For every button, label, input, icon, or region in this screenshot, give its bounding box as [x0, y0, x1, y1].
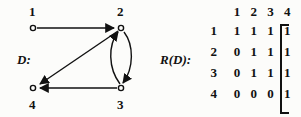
matrix-cell-2-2: 1: [245, 41, 262, 62]
bracket-col-right: [296, 62, 301, 83]
matrix-corner: [204, 4, 223, 20]
digraph-drawing: 1 2 3 4: [0, 0, 150, 117]
edge-3-to-2: [111, 32, 120, 84]
matrix-cell-2-3: 1: [262, 41, 279, 62]
bracket-col-right: [296, 20, 301, 41]
digraph-panel: D: 1 2 3: [0, 0, 150, 117]
matrix-bracket-left: [280, 24, 289, 110]
vertex-label-4: 4: [29, 97, 36, 112]
bracket-col-right: [296, 41, 301, 62]
edge-2-to-4: [40, 31, 118, 84]
matrix-cell-4-2: 0: [245, 83, 262, 104]
vertex-3: [118, 85, 123, 90]
reachability-figure: D: 1 2 3: [0, 0, 301, 117]
row-header-2: 2: [204, 41, 223, 62]
column-header-3: 3: [262, 4, 279, 20]
row-header-3: 3: [204, 62, 223, 83]
bracket-spacer-right: [296, 4, 301, 20]
vertex-2: [118, 25, 123, 30]
matrix-cell-4-3: 0: [262, 83, 279, 104]
vertex-label-3: 3: [117, 97, 124, 112]
vertex-label-1: 1: [29, 4, 36, 19]
vertex-label-2: 2: [117, 4, 124, 19]
matrix-cell-3-2: 1: [245, 62, 262, 83]
matrix-block: 1 2 3 4 1 1 1 1 1 2: [204, 4, 301, 104]
matrix-cell-4-1: 0: [229, 83, 246, 104]
column-header-1: 1: [229, 4, 246, 20]
vertex-1: [30, 25, 35, 30]
row-header-4: 4: [204, 83, 223, 104]
column-header-4: 4: [279, 4, 296, 20]
matrix-cell-3-1: 0: [229, 62, 246, 83]
matrix-panel: R(D): 1 2 3 4 1 1 1 1 1: [150, 0, 301, 117]
matrix-label: R(D):: [160, 52, 191, 68]
column-header-2: 2: [245, 4, 262, 20]
edge-2-to-3: [123, 32, 131, 83]
matrix-cell-1-3: 1: [262, 20, 279, 41]
matrix-cell-1-2: 1: [245, 20, 262, 41]
matrix-cell-1-1: 1: [229, 20, 246, 41]
matrix-cell-3-3: 1: [262, 62, 279, 83]
matrix-cell-2-1: 0: [229, 41, 246, 62]
vertex-4: [30, 85, 35, 90]
matrix-column-header-row: 1 2 3 4: [204, 4, 301, 20]
bracket-col-right: [296, 83, 301, 104]
row-header-1: 1: [204, 20, 223, 41]
